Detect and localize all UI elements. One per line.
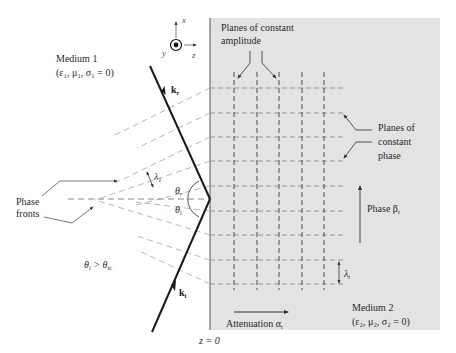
axis-z-label: z [191, 50, 196, 60]
phase-fronts-label-line2: fronts [16, 208, 39, 219]
phase-beta-label: Phase βt [367, 203, 400, 215]
phase-fronts-label-line1: Phase [16, 196, 40, 207]
planes-phase-label-line1: Planes of [378, 122, 416, 133]
coordinate-axes [171, 22, 197, 51]
planes-amplitude-label-line1: Planes of constant [221, 22, 294, 33]
planes-amplitude-label-line2: amplitude [221, 35, 262, 46]
planes-phase-label-line3: phase [378, 150, 401, 161]
incident-ray [152, 199, 210, 332]
phase-fronts-leader-lower [44, 207, 93, 223]
medium1-params: (ε₁, μ₁, σ₁ = 0) [56, 67, 114, 79]
phase-fronts-leader-upper [42, 181, 117, 196]
theta-i-label: θi [175, 204, 182, 216]
theta-r-label: θr [175, 185, 183, 197]
medium2-name: Medium 2 [352, 302, 393, 313]
lambda1-dimension-arrow [147, 172, 153, 187]
k-incident-label: ki [179, 287, 187, 299]
planes-phase-label-line2: constant [378, 136, 412, 147]
interface-label: z = 0 [198, 335, 220, 346]
lambda1-label: λ1 [153, 171, 162, 183]
medium1-name: Medium 1 [56, 53, 97, 64]
critical-angle-condition: θi > θic [84, 259, 112, 271]
axis-y-label: y [161, 48, 166, 58]
oblique-incidence-diagram: x y z Medium 1 (ε₁, μ₁, σ₁ = 0) kr ki θr… [0, 0, 456, 353]
axis-x-label: x [181, 15, 186, 25]
k-reflected-label: kr [171, 84, 180, 96]
medium2-region [210, 18, 440, 330]
attenuation-label: Attenuation αt [226, 318, 283, 330]
medium2-params: (ε₂, μ₂, σ₂ = 0) [352, 316, 410, 328]
